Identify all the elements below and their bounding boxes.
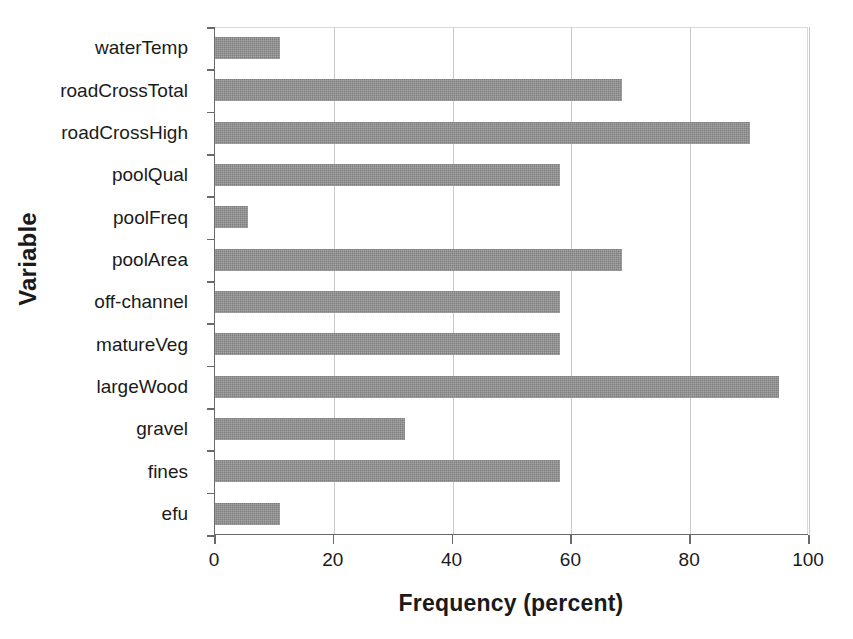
bar-roadCrossTotal[interactable] [215, 79, 622, 101]
bar-slot [215, 112, 808, 154]
x-axis-tick-label-40: 40 [441, 549, 462, 571]
bar-poolQual[interactable] [215, 164, 560, 186]
y-axis-label-largeWood: largeWood [96, 376, 188, 398]
x-axis-tick-100 [808, 535, 810, 544]
bar-slot [215, 366, 808, 408]
bar-slot [215, 239, 808, 281]
y-axis-label-off-channel: off-channel [94, 291, 188, 313]
bar-slot [215, 69, 808, 111]
x-axis-tick-60 [570, 535, 572, 544]
y-axis-tick [207, 408, 215, 410]
y-axis-label-fines: fines [148, 461, 188, 483]
x-axis-tick-label-0: 0 [209, 549, 220, 571]
y-axis-tick [207, 154, 215, 156]
bar-chart: Variable waterTemproadCrossTotalroadCros… [0, 0, 853, 639]
y-axis-tick [207, 493, 215, 495]
bar-gravel[interactable] [215, 418, 405, 440]
bar-series [215, 27, 808, 534]
y-axis-tick [207, 281, 215, 283]
x-axis-tick-80 [689, 535, 691, 544]
gridline-100 [809, 27, 810, 534]
bar-efu[interactable] [215, 503, 280, 525]
y-axis-tick [207, 239, 215, 241]
y-axis-tick [207, 366, 215, 368]
y-axis-tick [207, 27, 215, 29]
bar-largeWood[interactable] [215, 376, 779, 398]
x-axis-tick-0 [214, 535, 216, 544]
bar-fines[interactable] [215, 460, 560, 482]
y-axis-label-poolQual: poolQual [112, 164, 188, 186]
x-axis-tick-40 [452, 535, 454, 544]
x-axis-tick-20 [333, 535, 335, 544]
bar-slot [215, 450, 808, 492]
y-axis-label-roadCrossHigh: roadCrossHigh [61, 122, 188, 144]
bar-slot [215, 154, 808, 196]
bar-slot [215, 408, 808, 450]
bar-off-channel[interactable] [215, 291, 560, 313]
y-axis-tick [207, 450, 215, 452]
bar-matureVeg[interactable] [215, 333, 560, 355]
y-axis-tick [207, 196, 215, 198]
y-axis-label-poolArea: poolArea [112, 249, 188, 271]
x-axis-tick-label-100: 100 [792, 549, 824, 571]
x-axis-title: Frequency (percent) [214, 590, 808, 617]
y-axis-tick-labels: waterTemproadCrossTotalroadCrossHighpool… [0, 27, 202, 535]
y-axis-tick [207, 69, 215, 71]
bar-slot [215, 281, 808, 323]
x-axis-tick-label-60: 60 [560, 549, 581, 571]
bar-roadCrossHigh[interactable] [215, 122, 750, 144]
y-axis-label-matureVeg: matureVeg [96, 334, 188, 356]
y-axis-label-poolFreq: poolFreq [113, 207, 188, 229]
bar-waterTemp[interactable] [215, 37, 280, 59]
bar-poolFreq[interactable] [215, 206, 248, 228]
y-axis-label-efu: efu [162, 503, 188, 525]
bar-poolArea[interactable] [215, 249, 622, 271]
bar-slot [215, 27, 808, 69]
y-axis-label-roadCrossTotal: roadCrossTotal [60, 80, 188, 102]
x-axis-tick-label-80: 80 [679, 549, 700, 571]
y-axis-label-waterTemp: waterTemp [95, 37, 188, 59]
plot-area [214, 27, 808, 535]
y-axis-tick [207, 112, 215, 114]
bar-slot [215, 323, 808, 365]
y-axis-tick [207, 323, 215, 325]
bar-slot [215, 493, 808, 535]
x-axis-tick-label-20: 20 [322, 549, 343, 571]
y-axis-label-gravel: gravel [136, 418, 188, 440]
bar-slot [215, 196, 808, 238]
